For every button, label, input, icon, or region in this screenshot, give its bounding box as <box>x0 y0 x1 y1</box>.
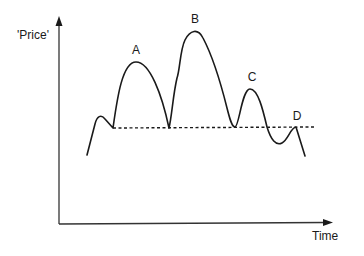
x-axis-arrowhead-icon <box>323 219 333 226</box>
x-axis <box>59 223 326 225</box>
x-axis-label: Time <box>312 230 338 242</box>
y-axis-arrowhead-icon <box>56 16 63 26</box>
price-time-diagram <box>0 0 364 256</box>
point-label-b: B <box>191 13 199 25</box>
support-dashed-line <box>113 127 314 128</box>
price-curve <box>87 31 305 156</box>
point-label-d: D <box>293 110 302 122</box>
y-axis-label: 'Price' <box>17 29 49 41</box>
point-label-c: C <box>248 71 257 83</box>
point-label-a: A <box>132 44 140 56</box>
